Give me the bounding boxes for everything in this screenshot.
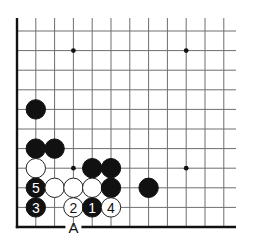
black-stone-disc bbox=[26, 139, 45, 158]
black-stone bbox=[139, 178, 158, 197]
white-stone bbox=[26, 159, 45, 178]
board-grid bbox=[16, 18, 236, 228]
move-number: 2 bbox=[70, 200, 78, 216]
black-stone bbox=[101, 178, 120, 197]
point-labels: A bbox=[68, 219, 78, 236]
black-stone bbox=[26, 139, 45, 158]
white-stone-disc bbox=[45, 178, 64, 197]
black-stone: 1 bbox=[83, 198, 102, 217]
point-label-a: A bbox=[68, 219, 78, 236]
white-stone bbox=[64, 178, 83, 197]
move-number: 1 bbox=[88, 200, 96, 216]
black-stone-disc bbox=[139, 178, 158, 197]
black-stone bbox=[83, 159, 102, 178]
white-stone: 2 bbox=[64, 198, 83, 217]
black-stone-disc bbox=[45, 139, 64, 158]
black-stone bbox=[45, 139, 64, 158]
white-stone: 4 bbox=[101, 198, 120, 217]
black-stone: 3 bbox=[26, 198, 45, 217]
white-stone bbox=[45, 178, 64, 197]
black-stone-disc bbox=[101, 178, 120, 197]
white-stone-disc bbox=[64, 178, 83, 197]
star-point bbox=[71, 48, 76, 53]
black-stone-disc bbox=[101, 159, 120, 178]
white-stone bbox=[83, 178, 102, 197]
black-stone: 5 bbox=[26, 178, 45, 197]
move-number: 3 bbox=[32, 200, 40, 216]
black-stone bbox=[26, 100, 45, 119]
star-point bbox=[71, 166, 76, 171]
white-stone-disc bbox=[26, 159, 45, 178]
go-board-diagram: 53214 A bbox=[0, 0, 254, 246]
star-point bbox=[184, 166, 189, 171]
move-number: 5 bbox=[32, 180, 40, 196]
move-number: 4 bbox=[107, 200, 115, 216]
white-stone-disc bbox=[83, 178, 102, 197]
black-stone-disc bbox=[83, 159, 102, 178]
star-point bbox=[184, 48, 189, 53]
black-stone bbox=[101, 159, 120, 178]
black-stone-disc bbox=[26, 100, 45, 119]
